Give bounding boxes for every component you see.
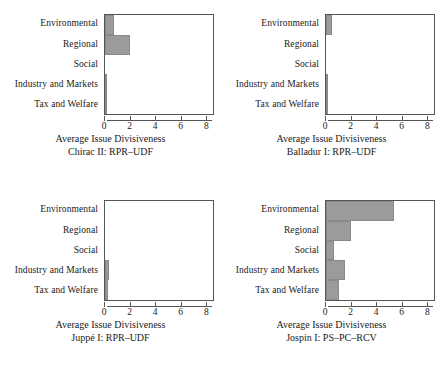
category-label-environmental: Environmental <box>0 200 101 220</box>
plot-area <box>325 14 435 115</box>
x-axis-title: Average Issue Divisiveness <box>0 319 221 332</box>
bar-regional <box>105 35 130 55</box>
category-label-social: Social <box>0 54 101 74</box>
x-axis-tick-label: 2 <box>127 308 132 318</box>
bar-row <box>326 94 434 114</box>
x-axis-tick-label: 4 <box>374 122 379 132</box>
bar-row <box>326 15 434 35</box>
category-label-regional: Regional <box>221 220 322 240</box>
bar-row <box>105 55 213 75</box>
bar-row <box>326 260 434 280</box>
x-axis-tick-label: 4 <box>374 308 379 318</box>
category-label-regional: Regional <box>0 34 101 54</box>
category-label-environmental: Environmental <box>221 200 322 220</box>
panel-balladur-i: Environmental Regional Social Industry a… <box>221 0 442 186</box>
category-label-environmental: Environmental <box>0 14 101 34</box>
bar-social <box>326 241 334 261</box>
category-axis-labels: Environmental Regional Social Industry a… <box>221 200 322 301</box>
panel-caption: Average Issue Divisiveness Balladur I: R… <box>221 133 442 158</box>
category-label-tax-and-welfare: Tax and Welfare <box>0 95 101 115</box>
x-axis-tick-label: 2 <box>348 122 353 132</box>
x-axis-tick-label: 2 <box>127 122 132 132</box>
bar-row <box>326 241 434 261</box>
bar-industry-and-markets <box>105 74 107 94</box>
x-axis-tick-label: 8 <box>204 308 209 318</box>
bar-series <box>326 15 434 114</box>
x-axis-title: Average Issue Divisiveness <box>221 319 442 332</box>
category-label-industry-and-markets: Industry and Markets <box>221 75 322 95</box>
x-axis-line <box>107 306 212 307</box>
bar-row <box>105 35 213 55</box>
bar-series <box>326 201 434 300</box>
panel-jospin-i: Environmental Regional Social Industry a… <box>221 186 442 373</box>
panel-subtitle: Chirac II: RPR–UDF <box>0 146 221 159</box>
bar-tax-and-welfare <box>326 280 339 300</box>
bar-tax-and-welfare <box>105 94 107 114</box>
bar-regional <box>326 221 351 241</box>
bar-row <box>105 260 213 280</box>
bar-row <box>105 94 213 114</box>
bar-row <box>105 201 213 221</box>
panel-caption: Average Issue Divisiveness Chirac II: RP… <box>0 133 221 158</box>
x-axis-tick-label: 8 <box>425 308 430 318</box>
x-axis-tick-label: 6 <box>399 122 404 132</box>
category-label-tax-and-welfare: Tax and Welfare <box>0 281 101 301</box>
x-axis-tick-label: 8 <box>204 122 209 132</box>
panel-caption: Average Issue Divisiveness Juppé I: RPR–… <box>0 319 221 344</box>
bar-row <box>105 15 213 35</box>
panel-juppe-i: Environmental Regional Social Industry a… <box>0 186 221 373</box>
x-axis-tick-label: 6 <box>178 122 183 132</box>
x-axis-line <box>328 306 433 307</box>
bar-environmental <box>326 201 394 221</box>
bar-series <box>105 15 213 114</box>
category-label-industry-and-markets: Industry and Markets <box>0 75 101 95</box>
panel-subtitle: Balladur I: RPR–UDF <box>221 146 442 159</box>
x-axis-tick-label: 2 <box>348 308 353 318</box>
category-label-tax-and-welfare: Tax and Welfare <box>221 95 322 115</box>
x-axis-tick-label: 8 <box>425 122 430 132</box>
x-axis-line <box>107 120 212 121</box>
x-axis-tick-label: 0 <box>323 308 328 318</box>
bar-environmental <box>326 15 332 35</box>
x-axis-tick-label: 6 <box>178 308 183 318</box>
bar-tax-and-welfare <box>105 280 108 300</box>
bar-industry-and-markets <box>326 74 328 94</box>
x-axis-line <box>328 120 433 121</box>
panel-subtitle: Juppé I: RPR–UDF <box>0 332 221 345</box>
bar-row <box>326 35 434 55</box>
category-label-tax-and-welfare: Tax and Welfare <box>221 281 322 301</box>
bar-row <box>105 241 213 261</box>
bar-row <box>326 74 434 94</box>
x-axis-title: Average Issue Divisiveness <box>221 133 442 146</box>
bar-row <box>326 201 434 221</box>
bar-row <box>326 55 434 75</box>
bar-row <box>326 221 434 241</box>
plot-area <box>104 14 214 115</box>
multi-panel-bar-chart-figure: Environmental Regional Social Industry a… <box>0 0 442 373</box>
plot-area <box>325 200 435 301</box>
bar-row <box>326 280 434 300</box>
x-axis-tick-label: 0 <box>323 122 328 132</box>
bar-row <box>105 74 213 94</box>
category-axis-labels: Environmental Regional Social Industry a… <box>0 200 101 301</box>
bar-row <box>105 221 213 241</box>
plot-area <box>104 200 214 301</box>
bar-tax-and-welfare <box>326 94 328 114</box>
category-label-regional: Regional <box>0 220 101 240</box>
panel-chirac-ii: Environmental Regional Social Industry a… <box>0 0 221 186</box>
category-axis-labels: Environmental Regional Social Industry a… <box>221 14 322 115</box>
x-axis-tick-label: 4 <box>153 122 158 132</box>
category-label-social: Social <box>221 54 322 74</box>
bar-industry-and-markets <box>326 260 345 280</box>
bar-industry-and-markets <box>105 260 109 280</box>
category-axis-labels: Environmental Regional Social Industry a… <box>0 14 101 115</box>
x-axis-tick-label: 0 <box>102 308 107 318</box>
category-label-social: Social <box>0 240 101 260</box>
panel-caption: Average Issue Divisiveness Jospin I: PS–… <box>221 319 442 344</box>
x-axis-title: Average Issue Divisiveness <box>0 133 221 146</box>
category-label-industry-and-markets: Industry and Markets <box>221 261 322 281</box>
category-label-social: Social <box>221 240 322 260</box>
category-label-regional: Regional <box>221 34 322 54</box>
category-label-industry-and-markets: Industry and Markets <box>0 261 101 281</box>
panel-subtitle: Jospin I: PS–PC–RCV <box>221 332 442 345</box>
